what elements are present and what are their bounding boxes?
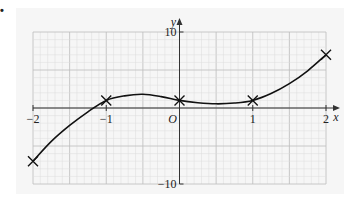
y-tick-label: −10 [158, 177, 177, 191]
x-tick-label: 1 [250, 112, 256, 126]
y-axis-label: y [170, 15, 177, 29]
origin-label: O [168, 112, 177, 126]
cubic-graph: −2−11210−10Oxy [0, 0, 361, 199]
x-tick-label: −2 [27, 112, 40, 126]
x-tick-label: −1 [100, 112, 113, 126]
x-tick-label: 2 [323, 112, 329, 126]
x-axis-label: x [332, 110, 339, 124]
